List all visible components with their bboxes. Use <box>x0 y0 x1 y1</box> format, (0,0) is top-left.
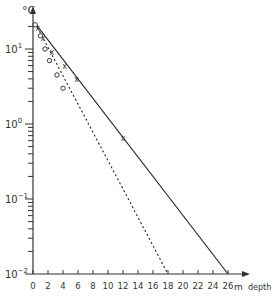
x-tick-label: 26 <box>223 281 234 291</box>
circle-marker-icon <box>33 23 37 27</box>
y-axis-label: °C <box>22 4 36 17</box>
circle-marker-icon <box>38 34 42 38</box>
x-tick-label: 2 <box>45 281 50 291</box>
y-tick-label: 10−2 <box>5 267 28 280</box>
x-tick-label: 22 <box>193 281 204 291</box>
x-tick-label: 18 <box>163 281 174 291</box>
circle-marker-icon <box>61 86 65 90</box>
cross-marker-icon: x <box>49 48 54 57</box>
x-axis-unit: m <box>234 282 243 292</box>
dashed-fit-line <box>35 23 168 274</box>
y-tick-label: 10−1 <box>5 192 28 205</box>
x-tick-label: 24 <box>208 281 219 291</box>
x-tick-label: 4 <box>60 281 65 291</box>
x-tick-label: 16 <box>148 281 159 291</box>
circle-marker-icon <box>43 47 47 51</box>
cross-marker-icon: x <box>62 62 67 71</box>
x-axis-arrow-icon <box>242 271 250 277</box>
x-axis-label: depth <box>248 283 271 292</box>
cross-marker-icon: x <box>74 75 79 84</box>
x-tick-label: 12 <box>118 281 129 291</box>
data-markers: xxxxxx <box>33 23 126 143</box>
x-tick-label: 20 <box>178 281 189 291</box>
y-tick-label: 101 <box>5 42 22 55</box>
temperature-depth-chart: 0246810121416182022242610−210−1100101 xx… <box>0 0 276 298</box>
x-tick-label: 14 <box>133 281 144 291</box>
axes <box>30 6 250 277</box>
x-tick-label: 0 <box>30 281 35 291</box>
ticks: 0246810121416182022242610−210−1100101 <box>5 26 233 291</box>
x-tick-label: 10 <box>103 281 114 291</box>
cross-marker-icon: x <box>121 134 126 143</box>
circle-marker-icon <box>47 58 51 62</box>
circle-marker-icon <box>55 73 59 77</box>
y-tick-label: 100 <box>5 117 22 130</box>
x-tick-label: 8 <box>90 281 95 291</box>
x-tick-label: 6 <box>75 281 80 291</box>
